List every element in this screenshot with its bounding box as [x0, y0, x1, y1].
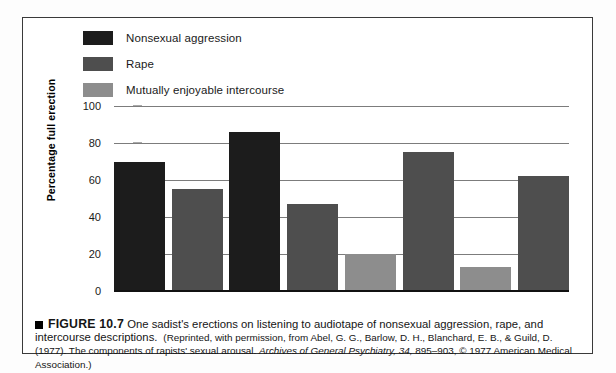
figure-number: FIGURE 10.7: [48, 317, 124, 331]
legend-swatch-icon: [83, 31, 113, 45]
y-axis-tick-label: 100: [67, 100, 101, 112]
bar: [345, 254, 396, 291]
y-axis-tick-label: 80: [67, 137, 101, 149]
y-axis-ticks: 100806040200: [67, 106, 101, 291]
plot-area: [114, 106, 569, 291]
y-axis-tick-label: 60: [67, 174, 101, 186]
y-axis-tick-label: 20: [67, 248, 101, 260]
bar-slot: [172, 106, 223, 291]
bar-group: [114, 106, 569, 291]
bar: [229, 132, 280, 291]
legend-item-label: Nonsexual aggression: [126, 32, 242, 44]
bar: [172, 189, 223, 291]
bar-slot: [518, 106, 569, 291]
bar-slot: [403, 106, 454, 291]
bar: [518, 176, 569, 291]
y-axis-tick-label: 0: [67, 285, 101, 297]
chart-legend: Nonsexual aggression Rape Mutually enjoy…: [83, 27, 413, 105]
legend-item-mutually-enjoyable-intercourse: Mutually enjoyable intercourse: [83, 79, 413, 101]
x-axis-baseline: [114, 290, 569, 292]
figure-page: Nonsexual aggression Rape Mutually enjoy…: [0, 0, 616, 373]
legend-item-label: Rape: [126, 58, 154, 70]
bar-slot: [114, 106, 165, 291]
bar: [403, 152, 454, 291]
legend-item-rape: Rape: [83, 53, 413, 75]
bar: [287, 204, 338, 291]
legend-item-label: Mutually enjoyable intercourse: [126, 84, 284, 96]
legend-swatch-icon: [83, 57, 113, 71]
bar-slot: [229, 106, 280, 291]
bar: [114, 162, 165, 292]
y-axis-title: Percentage full erection: [45, 65, 57, 215]
bar-slot: [460, 106, 511, 291]
legend-swatch-icon: [83, 83, 113, 97]
figure-caption: FIGURE 10.7 One sadist's erections on li…: [35, 318, 583, 371]
legend-item-nonsexual-aggression: Nonsexual aggression: [83, 27, 413, 49]
bar-slot: [345, 106, 396, 291]
black-square-icon: [35, 321, 43, 329]
figure-frame: Nonsexual aggression Rape Mutually enjoy…: [22, 17, 593, 354]
bar: [460, 267, 511, 291]
caption-source-journal: Archives of General Psychiatry, 34,: [259, 345, 413, 356]
bar-slot: [287, 106, 338, 291]
chart-plot: Percentage full erection 100806040200: [39, 106, 579, 313]
y-axis-tick-label: 40: [67, 211, 101, 223]
